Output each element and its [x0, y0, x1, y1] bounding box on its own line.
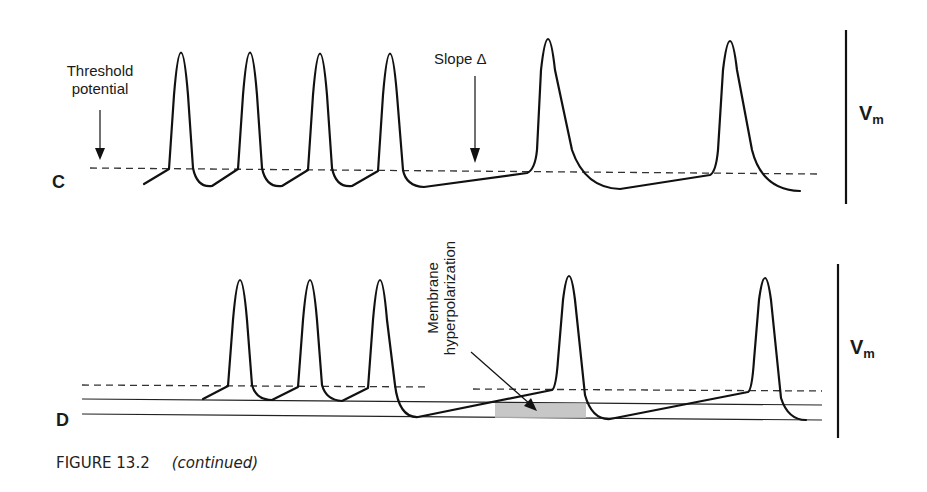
hyperpol-label-line2: hyperpolarization: [441, 218, 458, 378]
figure-caption: FIGURE 13.2(continued): [56, 454, 258, 472]
panel-d-vm-label: Vm: [850, 336, 875, 361]
hyperpol-label-line1: Membrane: [424, 218, 441, 378]
figure-13-2: C Threshold potential Slope Δ Vm D Membr…: [0, 0, 927, 492]
panel-d-vm-trace: [203, 276, 806, 420]
membrane-hyperpolarization-label: Membrane hyperpolarization: [424, 218, 458, 378]
panel-d-traces: [82, 264, 838, 438]
hyperpolarization-shaded-region: [495, 403, 586, 418]
threshold-label-line2: potential: [50, 80, 150, 98]
panel-d-threshold-line-left: [82, 385, 430, 387]
threshold-potential-label: Threshold potential: [50, 62, 150, 98]
vm-v: V: [850, 336, 863, 358]
slope-delta-label: Slope Δ: [434, 50, 487, 68]
panel-c-vm-label: Vm: [859, 102, 884, 127]
threshold-label-line1: Threshold: [50, 62, 150, 80]
panel-d-hyperpolarized-line: [82, 414, 822, 420]
panel-c-threshold-line: [90, 168, 818, 174]
hyperpol-arrow-shaft: [471, 352, 530, 404]
slope-arrow-head: [470, 148, 480, 163]
panel-d-threshold-line-right: [473, 389, 822, 391]
vm-sub: m: [872, 112, 884, 127]
panel-c-letter: C: [52, 172, 65, 193]
threshold-arrow-head: [95, 148, 105, 160]
vm-v: V: [859, 102, 872, 124]
panel-d-letter: D: [56, 410, 69, 431]
figure-note: (continued): [172, 454, 258, 472]
figure-number: FIGURE 13.2: [56, 454, 150, 472]
vm-sub: m: [863, 346, 875, 361]
